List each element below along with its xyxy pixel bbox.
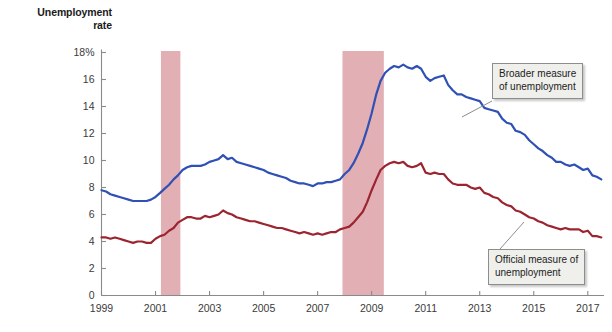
x-tick-label: 2011 — [414, 302, 437, 314]
annotation-official-line2: unemployment — [495, 267, 578, 280]
x-tick-label: 2007 — [306, 302, 330, 314]
y-tick-label: 8 — [89, 181, 95, 193]
x-tick-label: 2015 — [522, 302, 546, 314]
unemployment-rate-chart: Unemployment rate 024681012141618% 19992… — [0, 0, 612, 332]
y-tick-label: 10 — [83, 154, 95, 166]
x-tick-label: 2001 — [144, 302, 168, 314]
y-tick-label: 14 — [83, 100, 95, 112]
x-tick-label: 1999 — [90, 302, 114, 314]
y-tick-label: 0 — [89, 289, 95, 301]
y-tick-label: 6 — [89, 208, 95, 220]
callout-leader-line — [500, 222, 524, 249]
y-tick-label: 18% — [73, 46, 94, 58]
x-tick-label: 2017 — [576, 302, 600, 314]
annotation-broader-line1: Broader measure — [499, 68, 576, 81]
x-tick-label: 2005 — [252, 302, 276, 314]
annotation-official-measure: Official measure of unemployment — [488, 249, 585, 285]
x-tick-label: 2009 — [360, 302, 384, 314]
x-tick-label: 2013 — [468, 302, 492, 314]
callout-leader-lines — [462, 101, 524, 249]
annotation-broader-measure: Broader measure of unemployment — [492, 63, 583, 99]
x-tick-label: 2003 — [198, 302, 222, 314]
y-tick-label: 12 — [83, 127, 95, 139]
y-tick-label: 4 — [89, 235, 95, 247]
annotation-broader-line2: of unemployment — [499, 81, 576, 94]
annotation-official-line1: Official measure of — [495, 254, 578, 267]
y-tick-label: 16 — [83, 73, 95, 85]
y-tick-label: 2 — [89, 262, 95, 274]
recession-band — [161, 51, 180, 296]
